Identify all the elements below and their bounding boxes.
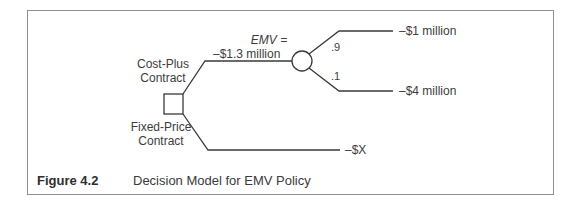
figure-caption: Decision Model for EMV Policy <box>133 173 311 188</box>
fixed-price-label: Fixed-Price Contract <box>121 120 201 148</box>
cost-plus-label-line2: Contract <box>128 71 198 85</box>
cost-plus-label-line1: Cost-Plus <box>128 57 198 71</box>
emv-label: EMV = <box>239 33 299 47</box>
cost-plus-label: Cost-Plus Contract <box>128 57 198 85</box>
fixed-price-label-line2: Contract <box>121 134 201 148</box>
outcome-low-value: –$4 million <box>399 84 456 98</box>
outcome-high-value: –$1 million <box>399 24 456 38</box>
cost-plus-branch-line <box>183 61 292 94</box>
emv-value: –$1.3 million <box>213 47 280 61</box>
fixed-price-outcome-value: –$X <box>345 143 366 157</box>
probability-high: .9 <box>331 40 340 54</box>
chance-branch-high-line <box>309 31 393 54</box>
probability-low: .1 <box>331 69 340 83</box>
decision-node-square <box>164 94 183 114</box>
chance-branch-low-line <box>309 68 393 91</box>
fixed-price-branch-line <box>183 114 340 150</box>
figure-number: Figure 4.2 <box>37 173 98 188</box>
fixed-price-label-line1: Fixed-Price <box>121 120 201 134</box>
